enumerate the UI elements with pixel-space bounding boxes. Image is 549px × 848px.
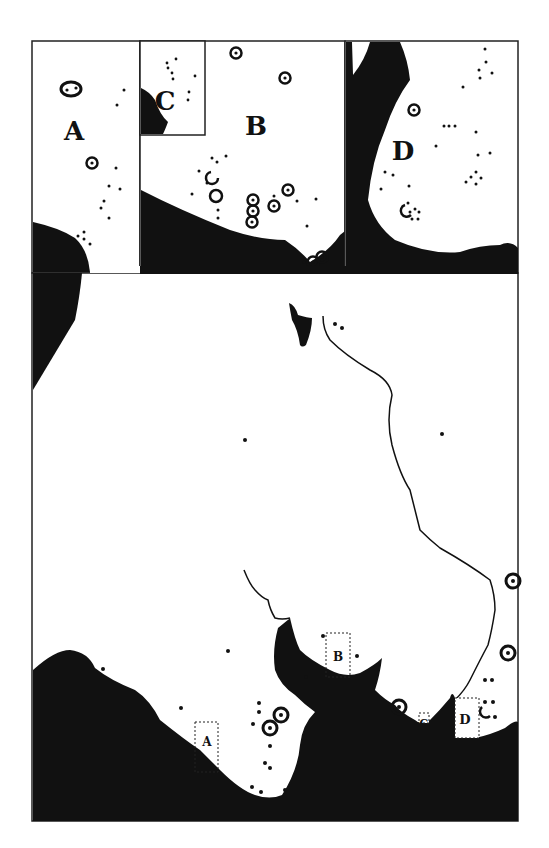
inset-c: C [140, 41, 205, 135]
inset-box-c[interactable]: C [419, 713, 429, 730]
map-figure: A B C [0, 0, 549, 848]
inset-a: A [32, 41, 140, 273]
inset-label: A [63, 116, 85, 146]
inset-box-label: C [420, 717, 429, 730]
main-map: A B C D [32, 266, 520, 821]
inset-box-label: D [459, 712, 470, 727]
inset-label: D [392, 136, 415, 166]
water-area [140, 266, 518, 274]
inset-box-d[interactable]: D [455, 698, 479, 738]
inset-d: D [345, 41, 518, 273]
inset-box-label: B [333, 650, 343, 664]
inset-box-label: A [201, 735, 212, 749]
inset-label: B [245, 111, 267, 141]
inset-label: C [155, 86, 176, 116]
